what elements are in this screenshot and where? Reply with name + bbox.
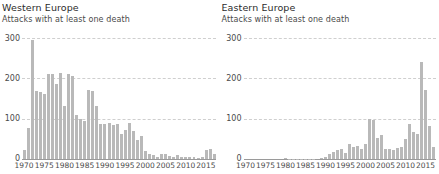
x-axis-tick-1990: 1990 bbox=[316, 161, 335, 170]
x-axis-baseline-eastern bbox=[244, 159, 436, 160]
x-axis-tick-2005: 2005 bbox=[376, 161, 395, 170]
x-axis-tick-1995: 1995 bbox=[116, 161, 135, 170]
x-axis-tick-1975: 1975 bbox=[35, 161, 54, 170]
x-axis-ticks-western-europe: 1970197519801985199019952000200520102015 bbox=[22, 161, 216, 173]
x-axis-tick-1980: 1980 bbox=[276, 161, 295, 170]
x-axis-tick-2000: 2000 bbox=[356, 161, 375, 170]
charts-container: Western Europe Attacks with at least one… bbox=[0, 0, 439, 174]
x-axis-baseline bbox=[22, 159, 216, 160]
x-axis-tick-1970: 1970 bbox=[236, 161, 255, 170]
y-axis-tick-300: 300 bbox=[0, 35, 20, 43]
chart-subtitle: Attacks with at least one death bbox=[2, 15, 130, 24]
x-axis-tick-2010: 2010 bbox=[176, 161, 195, 170]
plot-area-western-europe bbox=[22, 38, 216, 159]
chart-panel-eastern-europe: Eastern Europe Attacks with at least one… bbox=[220, 0, 439, 174]
x-axis-tick-1985: 1985 bbox=[75, 161, 94, 170]
chart-subtitle-eastern: Attacks with at least one death bbox=[222, 15, 350, 24]
x-axis-tick-2015: 2015 bbox=[196, 161, 215, 170]
plot-area-eastern-europe bbox=[244, 38, 436, 159]
x-axis-tick-2010: 2010 bbox=[396, 161, 415, 170]
x-axis-tick-1985: 1985 bbox=[296, 161, 315, 170]
page-title-eastern: Eastern Europe bbox=[222, 2, 296, 13]
page-title: Western Europe bbox=[2, 2, 79, 13]
x-axis-tick-1970: 1970 bbox=[14, 161, 33, 170]
x-axis-tick-1975: 1975 bbox=[256, 161, 275, 170]
y-axis-tick-100-eastern: 100 bbox=[220, 115, 242, 123]
bar-rect bbox=[432, 147, 435, 159]
x-axis-tick-2015: 2015 bbox=[416, 161, 435, 170]
bar-series-eastern-europe bbox=[244, 38, 436, 159]
bar-2017 bbox=[212, 38, 216, 159]
y-axis-tick-300-eastern: 300 bbox=[220, 35, 242, 43]
bar-2017 bbox=[432, 38, 436, 159]
x-axis-tick-2005: 2005 bbox=[156, 161, 175, 170]
x-axis-tick-2000: 2000 bbox=[136, 161, 155, 170]
y-axis-tick-200: 200 bbox=[0, 75, 20, 83]
chart-panel-western-europe: Western Europe Attacks with at least one… bbox=[0, 0, 220, 174]
x-axis-tick-1995: 1995 bbox=[336, 161, 355, 170]
x-axis-ticks-eastern-europe: 1970197519801985199019952000200520102015 bbox=[244, 161, 436, 173]
y-axis-tick-200-eastern: 200 bbox=[220, 75, 242, 83]
bar-series-western-europe bbox=[22, 38, 216, 159]
x-axis-tick-1980: 1980 bbox=[55, 161, 74, 170]
bar-rect bbox=[213, 154, 216, 159]
y-axis-tick-100: 100 bbox=[0, 115, 20, 123]
x-axis-tick-1990: 1990 bbox=[95, 161, 114, 170]
